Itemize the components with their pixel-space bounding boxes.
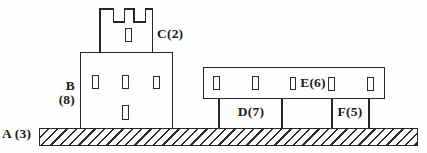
window bbox=[213, 76, 220, 90]
window bbox=[153, 76, 160, 89]
window bbox=[122, 105, 129, 120]
window bbox=[122, 75, 129, 89]
tower-left-wall bbox=[99, 8, 101, 52]
crenellation-notch-bottom bbox=[133, 21, 146, 23]
tower-right-wall bbox=[152, 8, 154, 52]
window bbox=[367, 77, 374, 91]
right-pillar-label: F(5) bbox=[331, 105, 369, 119]
window bbox=[328, 77, 335, 91]
beam-label: E(6) bbox=[298, 76, 328, 90]
window bbox=[125, 28, 132, 42]
ground-label: A (3) bbox=[2, 127, 31, 141]
crenellation-notch-bottom bbox=[113, 21, 126, 23]
structure-diagram: A (3) B(8) C(2) E(6) D(7) F(5) bbox=[0, 0, 427, 153]
building-b-label: B(8) bbox=[46, 79, 75, 106]
window bbox=[252, 76, 259, 90]
window bbox=[290, 77, 296, 90]
left-pillar-label: D(7) bbox=[222, 105, 280, 119]
tower-label: C(2) bbox=[157, 27, 183, 41]
support-line bbox=[218, 98, 220, 128]
window bbox=[92, 75, 99, 89]
support-line bbox=[281, 98, 283, 128]
ground-strip bbox=[39, 128, 418, 146]
building-b-number: (8) bbox=[59, 92, 75, 107]
